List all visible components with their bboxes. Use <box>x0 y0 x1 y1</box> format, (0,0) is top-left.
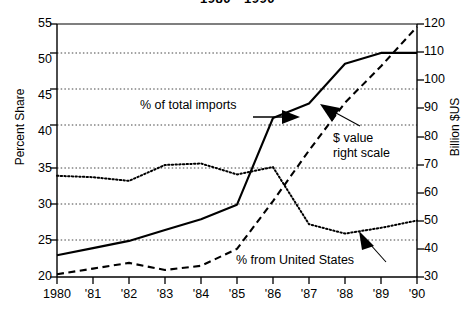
annotation-arrow-total-imports <box>253 110 300 124</box>
series-line-from-united-states <box>57 164 417 234</box>
annotation-arrow-united-states <box>359 231 386 262</box>
annotation-arrow-dollar-value <box>320 104 360 126</box>
gridlines <box>57 53 417 240</box>
chart-figure: 1980 - 1990 Percent Share Billion $US 55… <box>0 0 475 312</box>
plot-area <box>0 0 475 312</box>
